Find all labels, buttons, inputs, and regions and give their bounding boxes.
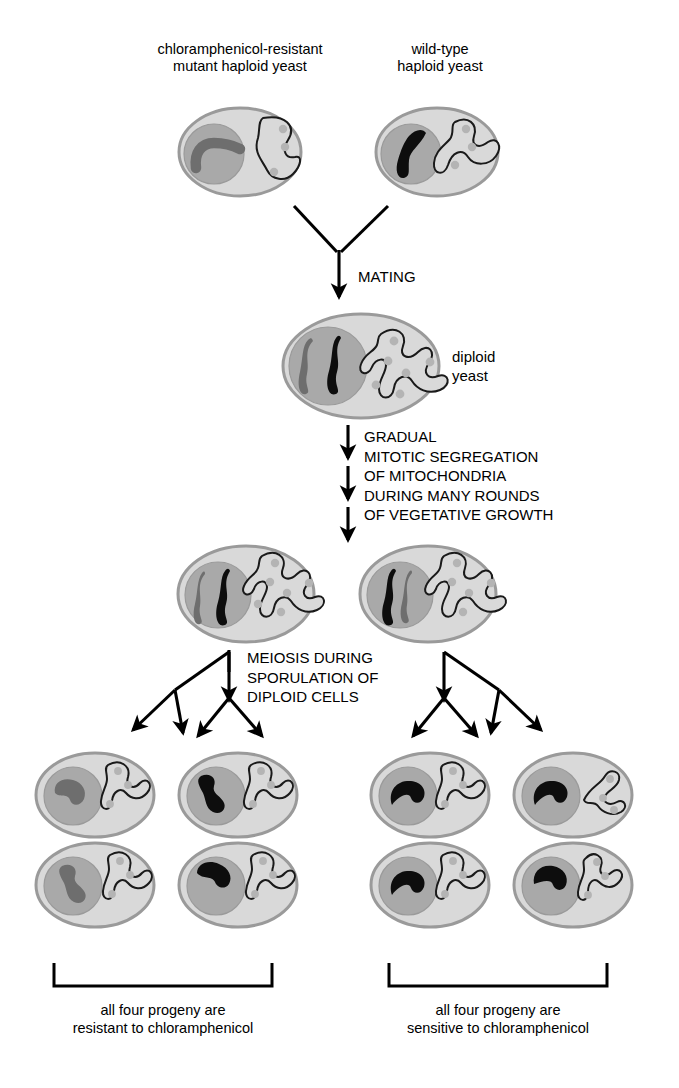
diagram-svg bbox=[0, 0, 679, 1088]
label-meiosis: MEIOSIS DURING SPORULATION OF DIPLOID CE… bbox=[247, 648, 378, 707]
cell-progeny-left-1 bbox=[36, 753, 154, 837]
cell-progeny-left-4 bbox=[179, 843, 297, 927]
cell-progeny-left-2 bbox=[179, 753, 297, 837]
cell-segregated-right bbox=[360, 546, 506, 642]
cell-progeny-left-3 bbox=[36, 843, 154, 927]
nucleus bbox=[289, 327, 367, 405]
cell-parent-right bbox=[376, 108, 499, 196]
label-mating: MATING bbox=[358, 268, 416, 286]
meiosis-arrows-right bbox=[413, 652, 541, 736]
diagram-canvas: chloramphenicol-resistant mutant haploid… bbox=[0, 0, 679, 1088]
label-parent-right: wild-type haploid yeast bbox=[360, 41, 520, 75]
label-diploid-yeast: diploid yeast bbox=[452, 348, 495, 386]
meiosis-arrows-left bbox=[133, 650, 262, 736]
label-mitotic-segregation: GRADUAL MITOTIC SEGREGATION OF MITOCHOND… bbox=[364, 427, 553, 525]
cell-segregated-left bbox=[178, 546, 324, 642]
bracket-right bbox=[389, 963, 607, 986]
cell-progeny-right-1 bbox=[371, 753, 489, 837]
cell-parent-left bbox=[179, 108, 301, 196]
cell-diploid bbox=[283, 314, 448, 418]
bracket-left bbox=[54, 963, 272, 986]
caption-right: all four progeny are sensitive to chlora… bbox=[378, 1001, 618, 1037]
nucleus bbox=[381, 124, 441, 184]
cell-progeny-right-2 bbox=[514, 753, 632, 837]
caption-left: all four progeny are resistant to chlora… bbox=[43, 1001, 283, 1037]
cell-progeny-right-3 bbox=[371, 843, 489, 927]
cell-progeny-right-4 bbox=[514, 843, 632, 927]
label-parent-left: chloramphenicol-resistant mutant haploid… bbox=[125, 41, 355, 75]
